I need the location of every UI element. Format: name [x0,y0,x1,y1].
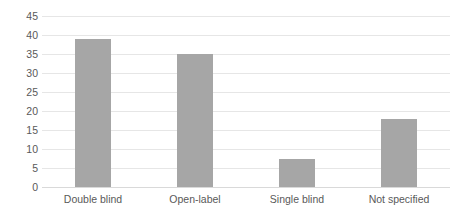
bar-chart: 051015202530354045 Double blindOpen-labe… [0,0,455,221]
y-tick-label: 0 [0,182,38,193]
y-tick-label: 30 [0,68,38,79]
bar[interactable] [177,54,213,187]
bar[interactable] [381,119,417,187]
plot-area [42,16,450,187]
gridline [42,16,450,17]
y-tick-label: 35 [0,49,38,60]
bar[interactable] [279,159,315,188]
bar[interactable] [75,39,111,187]
x-tick-label: Single blind [246,192,348,206]
y-tick-label: 25 [0,87,38,98]
x-tick-label: Open-label [144,192,246,206]
x-tick-label: Double blind [42,192,144,206]
y-tick-label: 5 [0,163,38,174]
gridline [42,35,450,36]
x-tick-label: Not specified [348,192,450,206]
y-tick-label: 10 [0,144,38,155]
y-tick-label: 20 [0,106,38,117]
gridline [42,187,450,188]
y-tick-label: 40 [0,30,38,41]
x-axis: Double blindOpen-labelSingle blindNot sp… [42,192,450,212]
y-axis: 051015202530354045 [0,0,38,221]
y-tick-label: 15 [0,125,38,136]
y-tick-label: 45 [0,11,38,22]
